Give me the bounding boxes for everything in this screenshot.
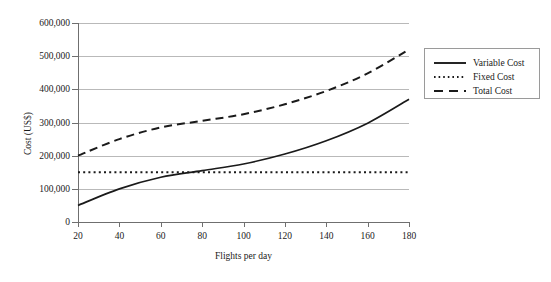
x-axis-tick-label: 20 xyxy=(58,231,98,242)
x-axis-tick xyxy=(285,222,286,227)
y-axis-tick xyxy=(72,56,78,57)
x-axis-tick-label: 80 xyxy=(182,231,222,242)
cost-vs-flights-chart: Cost (US$) Flights per day Variable Cost… xyxy=(0,0,551,282)
x-axis-tick-label: 180 xyxy=(389,231,429,242)
legend-item-label: Fixed Cost xyxy=(473,72,514,83)
x-axis-tick xyxy=(161,222,162,227)
y-axis-tick-label: 100,000 xyxy=(0,184,70,194)
x-axis-tick-label: 120 xyxy=(265,231,305,242)
legend-item[interactable]: Variable Cost xyxy=(433,56,524,70)
dashed-line-icon xyxy=(433,86,467,96)
y-axis-tick-label: 300,000 xyxy=(0,118,70,128)
y-axis-tick-label: 0 xyxy=(0,217,70,227)
x-axis-tick xyxy=(409,222,410,227)
y-axis-tick xyxy=(72,189,78,190)
legend-item-label: Total Cost xyxy=(473,86,512,97)
x-axis-title: Flights per day xyxy=(78,250,409,262)
legend-item[interactable]: Fixed Cost xyxy=(433,70,514,84)
x-axis-tick-label: 100 xyxy=(224,231,264,242)
x-axis-tick xyxy=(119,222,120,227)
x-axis-tick xyxy=(368,222,369,227)
dotted-line-icon xyxy=(433,72,467,82)
x-axis-tick-label: 60 xyxy=(141,231,181,242)
x-axis-tick xyxy=(202,222,203,227)
series-line-total-cost xyxy=(78,50,409,156)
legend-item[interactable]: Total Cost xyxy=(433,84,512,98)
y-axis-tick-label: 600,000 xyxy=(0,18,70,28)
y-axis-tick xyxy=(72,23,78,24)
chart-legend: Variable CostFixed CostTotal Cost xyxy=(424,48,540,99)
x-axis-tick-label: 160 xyxy=(348,231,388,242)
x-axis-tick-label: 140 xyxy=(306,231,346,242)
x-axis-tick-label: 40 xyxy=(99,231,139,242)
y-axis-tick xyxy=(72,89,78,90)
y-axis-tick-label: 200,000 xyxy=(0,151,70,161)
x-axis-tick xyxy=(244,222,245,227)
legend-item-label: Variable Cost xyxy=(473,58,524,69)
y-axis-tick xyxy=(72,123,78,124)
solid-line-icon xyxy=(433,58,467,68)
x-axis-tick xyxy=(326,222,327,227)
x-axis-tick xyxy=(78,222,79,227)
y-axis-tick xyxy=(72,156,78,157)
y-axis-tick-label: 400,000 xyxy=(0,84,70,94)
y-axis-tick-label: 500,000 xyxy=(0,51,70,61)
